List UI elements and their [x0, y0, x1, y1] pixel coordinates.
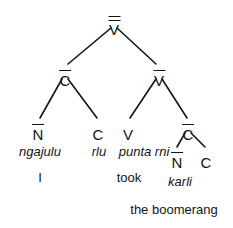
gloss-the-boomerang: the boomerang — [130, 203, 217, 216]
branch-vbar-to-cbar-right — [162, 79, 187, 118]
branch-root-to-cbar — [68, 28, 111, 64]
word-ngajulu: ngajulu — [19, 145, 61, 158]
word-karli: karli — [168, 175, 192, 188]
node-right-vbar: V — [153, 73, 164, 88]
branch-cbar-to-c — [68, 79, 97, 118]
node-cbar-right: C — [182, 127, 194, 142]
gloss-took: took — [117, 171, 142, 184]
node-label: C — [201, 154, 212, 171]
word-rlu: rlu — [92, 145, 106, 158]
node-label: N — [33, 126, 44, 143]
node-label: V — [109, 21, 119, 38]
node-label: C — [60, 72, 71, 89]
node-label: C — [93, 126, 104, 143]
branch-root-to-vbar — [117, 28, 156, 64]
branch-vbar-to-v — [130, 79, 156, 118]
overbar-upper — [108, 16, 120, 18]
node-c-rlu: C — [92, 127, 104, 142]
node-nbar-karli: N — [171, 155, 183, 170]
node-v-punta: V — [122, 127, 133, 142]
overbar — [32, 124, 45, 126]
node-left-cbar: C — [59, 73, 71, 88]
overbar — [182, 124, 195, 126]
node-label: V — [154, 72, 164, 89]
node-label: N — [172, 154, 183, 171]
gloss-i: I — [38, 171, 42, 184]
node-nbar-ngajulu: N — [32, 127, 44, 142]
node-root-vbb: V — [108, 22, 119, 37]
overbar-lower — [108, 20, 120, 22]
overbar — [59, 70, 72, 72]
syntax-tree-diagram: V C V N C V C — [0, 0, 233, 228]
node-c-final: C — [200, 155, 212, 170]
node-label: V — [123, 126, 133, 143]
node-label: C — [183, 126, 194, 143]
word-punta-rni: punta rni — [119, 145, 170, 158]
overbar — [171, 152, 184, 154]
overbar — [153, 70, 165, 72]
